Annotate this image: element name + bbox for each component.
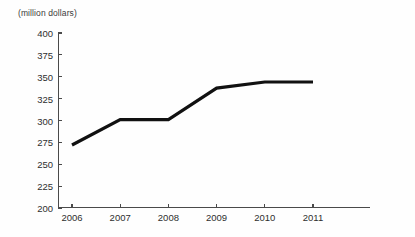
y-axis-tick-label: 250 — [37, 159, 53, 170]
x-axis-tick-label: 2010 — [254, 212, 275, 223]
x-axis-tick-label: 2009 — [206, 212, 227, 223]
y-axis-tick-label: 400 — [37, 28, 53, 39]
x-axis-tick-label: 2007 — [110, 212, 131, 223]
x-axis-tick-labels: 200620072008200920102011 — [58, 212, 370, 226]
plot-area — [58, 33, 370, 208]
data-series-line — [58, 33, 370, 208]
line-chart: (million dollars) 2002252502753003253503… — [0, 0, 415, 237]
y-axis-tick-label: 325 — [37, 93, 53, 104]
x-axis-tick-label: 2006 — [61, 212, 82, 223]
y-axis-tick-label: 350 — [37, 71, 53, 82]
y-axis-unit-label: (million dollars) — [18, 8, 77, 18]
y-axis-tick-labels: 200225250275300325350375400 — [20, 33, 53, 208]
y-axis-tick-label: 300 — [37, 115, 53, 126]
y-axis-tick-label: 225 — [37, 181, 53, 192]
y-axis-tick-label: 375 — [37, 49, 53, 60]
y-axis-tick-label: 275 — [37, 137, 53, 148]
y-axis-tick-label: 200 — [37, 203, 53, 214]
x-axis-tick-label: 2011 — [303, 212, 323, 223]
x-axis-tick-label: 2008 — [158, 212, 179, 223]
